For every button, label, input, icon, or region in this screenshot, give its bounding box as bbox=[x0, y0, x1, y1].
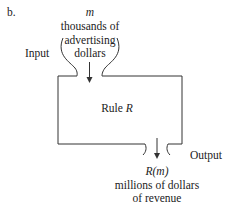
figure-label: b. bbox=[7, 6, 16, 19]
input-description-line-2: advertising bbox=[64, 34, 115, 47]
output-arrow-head-icon bbox=[154, 153, 160, 159]
input-description-line-1: thousands of bbox=[61, 20, 119, 33]
input-description-line-3: dollars bbox=[74, 47, 105, 60]
output-description-line-1: millions of dollars bbox=[115, 179, 199, 192]
output-hook-right bbox=[167, 144, 170, 155]
input-variable: m bbox=[86, 6, 94, 19]
output-expression: R(m) bbox=[146, 165, 169, 178]
input-arrow-head-icon bbox=[87, 77, 93, 83]
output-side-label: Output bbox=[190, 149, 222, 162]
machine-label-variable: R bbox=[126, 102, 133, 114]
output-hook-left bbox=[143, 144, 146, 155]
machine-label: Rule R bbox=[101, 102, 133, 115]
input-side-label: Input bbox=[25, 47, 49, 60]
output-description-line-2: of revenue bbox=[133, 192, 182, 205]
machine-label-prefix: Rule bbox=[101, 102, 126, 114]
